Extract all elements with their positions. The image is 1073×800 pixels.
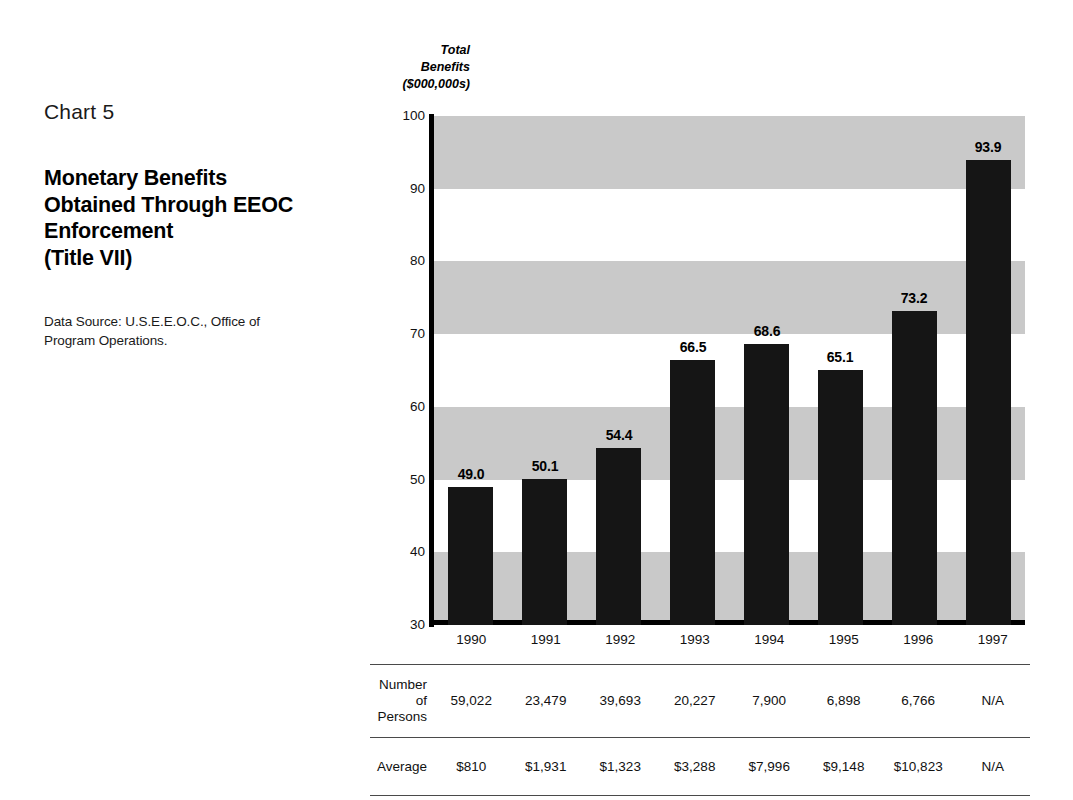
y-axis-tick-label: 60 (381, 400, 425, 414)
persons-row-head-line-2: Persons (377, 709, 427, 724)
y-axis-tick-label: 100 (381, 109, 425, 123)
bar-value-label-1991: 50.1 (508, 459, 582, 473)
y-axis-tick-label: 50 (381, 473, 425, 487)
year-cell: 1993 (658, 627, 733, 651)
rule-cell (370, 783, 1030, 800)
y-axis-title-line-2: Benefits (358, 59, 470, 76)
y-axis-title: Total Benefits ($000,000s) (358, 42, 470, 92)
grid-band (434, 116, 1025, 189)
table-row-average: Average $810 $1,931 $1,323 $3,288 $7,996… (370, 751, 1030, 783)
y-axis-line (429, 114, 434, 627)
bar-value-label-1992: 54.4 (582, 428, 656, 442)
persons-cell: 6,766 (881, 677, 956, 725)
average-cell: $1,931 (509, 751, 584, 783)
y-axis-title-line-3: ($000,000s) (358, 76, 470, 93)
persons-cell: N/A (956, 677, 1031, 725)
average-cell: $810 (434, 751, 509, 783)
y-axis-tick-label: 80 (381, 254, 425, 268)
bar-1995 (818, 370, 863, 625)
bar-1996 (892, 311, 937, 625)
persons-cell: 59,022 (434, 677, 509, 725)
y-axis-title-line-1: Total (358, 42, 470, 59)
persons-cell: 20,227 (658, 677, 733, 725)
year-cell: 1991 (509, 627, 584, 651)
bar-value-label-1997: 93.9 (951, 140, 1025, 154)
average-cell: $7,996 (732, 751, 807, 783)
year-cell: 1994 (732, 627, 807, 651)
average-cell: $10,823 (881, 751, 956, 783)
persons-cell: 39,693 (583, 677, 658, 725)
y-axis-tick-label: 40 (381, 545, 425, 559)
table-row-years: 1990 1991 1992 1993 1994 1995 1996 1997 (370, 627, 1030, 651)
year-cell: 1997 (956, 627, 1031, 651)
year-cell: 1995 (807, 627, 882, 651)
bar-value-label-1996: 73.2 (877, 291, 951, 305)
data-table: 1990 1991 1992 1993 1994 1995 1996 1997 … (370, 627, 1030, 800)
y-axis-tick-label: 70 (381, 327, 425, 341)
persons-cell: 23,479 (509, 677, 584, 725)
bar-value-label-1995: 65.1 (803, 350, 877, 364)
rule-cell (370, 725, 1030, 751)
average-cell: $1,323 (583, 751, 658, 783)
bar-1992 (596, 448, 641, 625)
year-cell: 1992 (583, 627, 658, 651)
horizontal-rule (370, 737, 1030, 738)
rule-cell (370, 651, 1030, 677)
average-cell: $9,148 (807, 751, 882, 783)
bar-value-label-1990: 49.0 (434, 467, 508, 481)
table-rule-under-persons (370, 725, 1030, 751)
persons-row-head-line-1: Number of (379, 677, 427, 708)
persons-cell: 6,898 (807, 677, 882, 725)
average-cell: N/A (956, 751, 1031, 783)
horizontal-rule (370, 795, 1030, 796)
table-rule-under-years (370, 651, 1030, 677)
table-rule-under-average (370, 783, 1030, 800)
bar-1997 (966, 160, 1011, 625)
horizontal-rule (370, 664, 1030, 665)
year-cell: 1990 (434, 627, 509, 651)
table-row-persons: Number of Persons 59,022 23,479 39,693 2… (370, 677, 1030, 725)
year-cell: 1996 (881, 627, 956, 651)
bar-1990 (448, 487, 493, 625)
average-row-head: Average (370, 751, 434, 783)
persons-row-head: Number of Persons (370, 677, 434, 725)
bar-value-label-1993: 66.5 (656, 340, 730, 354)
bar-1991 (522, 479, 567, 625)
summary-table: 1990 1991 1992 1993 1994 1995 1996 1997 … (370, 627, 1030, 800)
bar-value-label-1994: 68.6 (730, 324, 804, 338)
bar-1994 (744, 344, 789, 625)
persons-cell: 7,900 (732, 677, 807, 725)
average-cell: $3,288 (658, 751, 733, 783)
bar-1993 (670, 360, 715, 625)
y-axis-tick-label: 90 (381, 182, 425, 196)
years-row-head (370, 627, 434, 651)
